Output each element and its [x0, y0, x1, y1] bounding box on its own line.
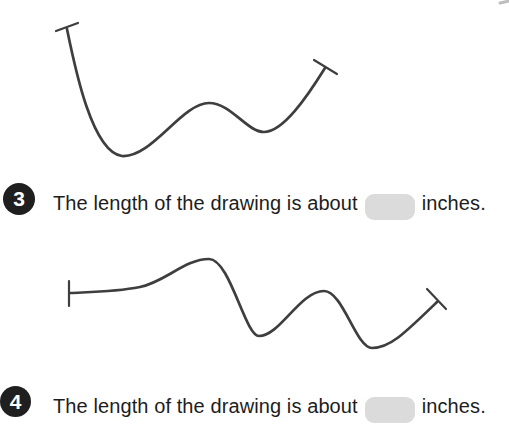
page-corner-artifact — [500, 1, 509, 3]
question-4-text-before-blank: The length of the drawing is about — [53, 395, 358, 418]
squiggle-3-end-tick-marks — [56, 23, 337, 74]
worksheet-page: 3 The length of the drawing is about inc… — [0, 0, 509, 443]
question-3-answer-blank[interactable] — [365, 194, 415, 220]
question-4-text-after-blank: inches. — [422, 395, 486, 418]
squiggle-4-end-tick-marks — [69, 281, 446, 309]
question-3-text-before-blank: The length of the drawing is about — [53, 192, 358, 215]
question-3-sentence: The length of the drawing is about inche… — [53, 190, 486, 216]
question-4-answer-blank[interactable] — [365, 397, 415, 423]
question-4-sentence: The length of the drawing is about inche… — [53, 393, 486, 419]
question-4-row: 4 The length of the drawing is about inc… — [0, 386, 486, 426]
squiggle-drawing-4 — [70, 259, 437, 348]
question-3-row: 3 The length of the drawing is about inc… — [0, 183, 486, 223]
question-3-number-badge: 3 — [3, 183, 35, 215]
question-4-number-badge: 4 — [0, 386, 31, 417]
question-3-text-after-blank: inches. — [422, 192, 486, 215]
squiggle-drawing-3 — [67, 29, 325, 156]
